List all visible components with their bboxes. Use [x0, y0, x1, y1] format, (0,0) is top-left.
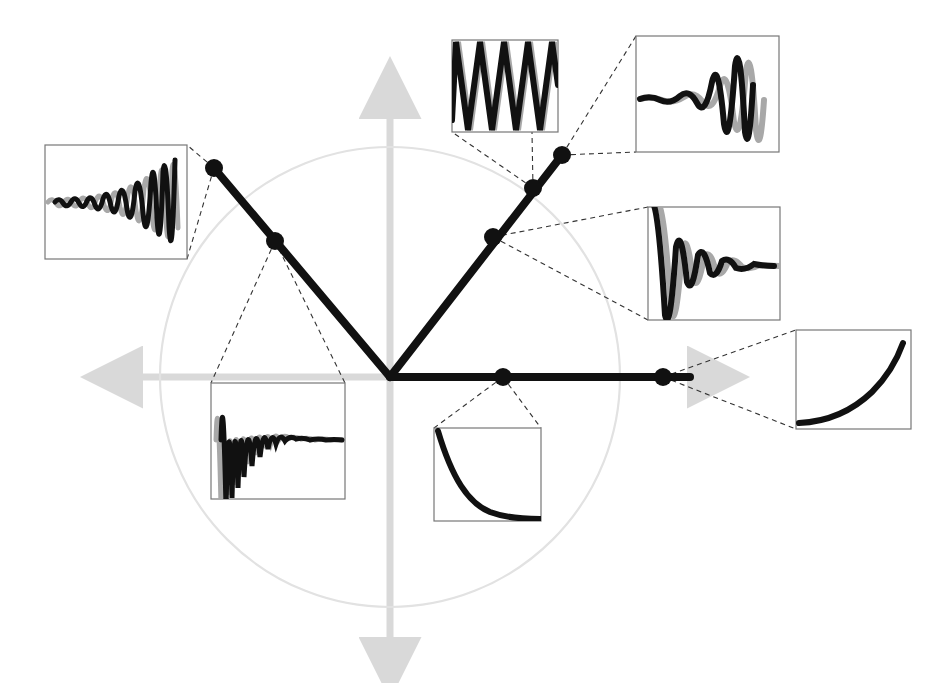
pole-marker-p1[interactable] — [205, 159, 223, 177]
pole-marker-p2[interactable] — [266, 232, 284, 250]
leader-p6-a — [434, 377, 503, 428]
inset-growing-oscillation-left[interactable] — [45, 145, 187, 259]
leader-p5-b — [562, 152, 636, 155]
pole-marker-p7[interactable] — [654, 368, 672, 386]
pole-marker-p5[interactable] — [553, 146, 571, 164]
inset-damped-fast-oscillation[interactable] — [211, 383, 345, 508]
inset-border — [796, 330, 911, 429]
leader-p6-b — [503, 377, 541, 428]
upper-left-ray — [214, 168, 390, 377]
inset-damped-oscillation[interactable] — [648, 203, 780, 320]
leader-p3-b — [493, 237, 648, 320]
inset-growing-oscillation-right[interactable] — [636, 36, 779, 152]
pole-marker-p3[interactable] — [484, 228, 502, 246]
leader-p7-a — [663, 330, 796, 377]
leader-p5-a — [562, 36, 636, 155]
pole-marker-p6[interactable] — [494, 368, 512, 386]
inset-exponential-growth[interactable] — [796, 330, 911, 429]
inset-undamped-oscillation[interactable] — [452, 40, 558, 132]
leader-p2-a — [211, 241, 275, 383]
pole-location-figure — [0, 0, 950, 683]
inset-border — [434, 428, 541, 521]
figure-canvas — [0, 0, 950, 683]
pole-markers-group — [205, 146, 672, 386]
leader-p7-b — [663, 377, 796, 429]
inset-exponential-decay[interactable] — [434, 428, 541, 521]
pole-marker-p4[interactable] — [524, 179, 542, 197]
